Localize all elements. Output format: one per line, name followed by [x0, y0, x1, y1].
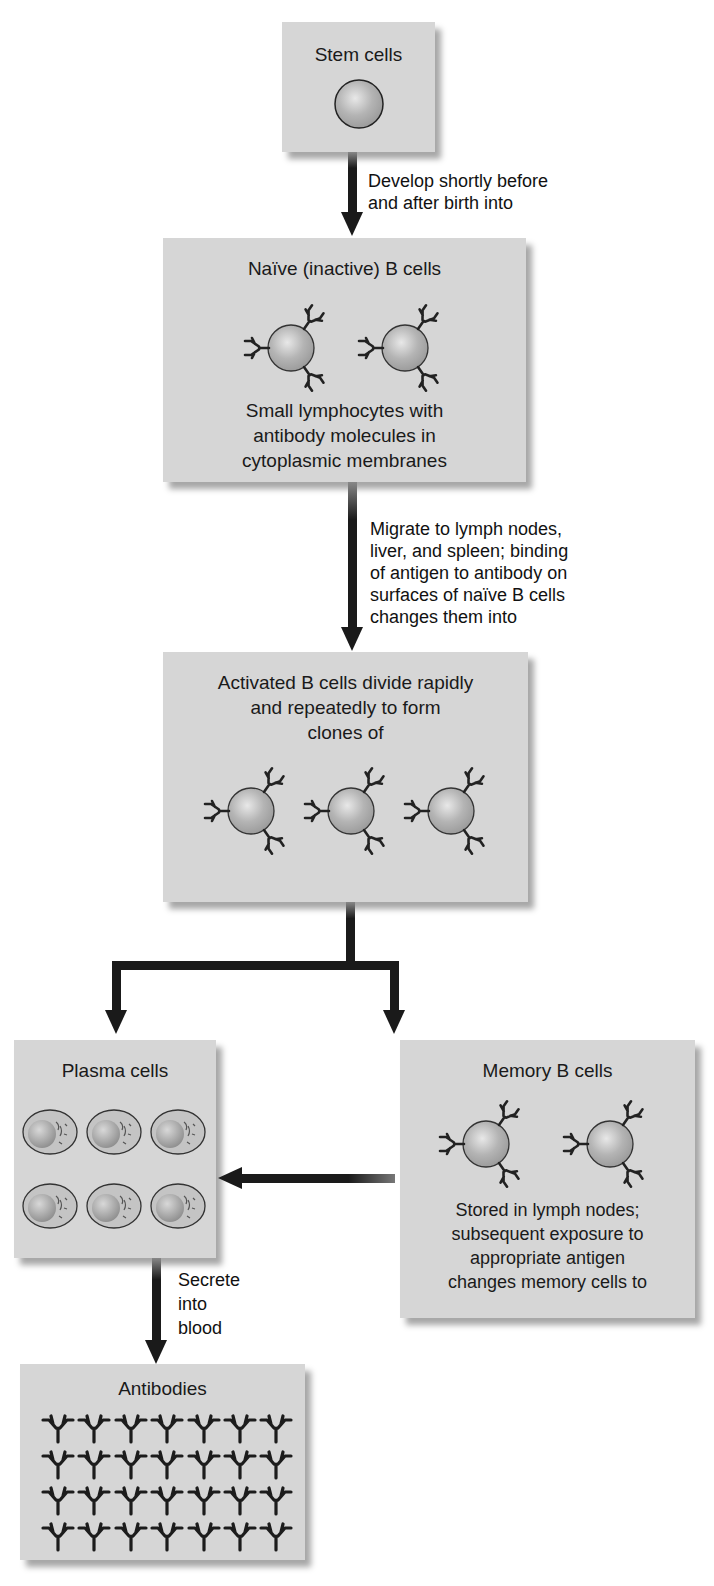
arrow-plasma-to-antibodies: [152, 1258, 161, 1344]
antibodies-grid-icon: [20, 1364, 305, 1560]
arrow-head-icon: [218, 1167, 242, 1189]
plasma-cells-icon: [14, 1040, 216, 1258]
arrow-head-icon: [145, 1340, 167, 1364]
memory-b-cells-box: Memory B cells Stored in lymph nodes; su…: [400, 1040, 695, 1318]
activated-b-cell-clones-icon: [163, 652, 528, 902]
arrow-memory-to-plasma: [240, 1174, 395, 1183]
stem-cell-icon: [333, 78, 385, 130]
edge-label-plasma-to-antibodies: Secrete into blood: [178, 1268, 240, 1340]
branch-left: [112, 961, 121, 1015]
arrow-head-icon: [105, 1010, 127, 1034]
branch-stem: [346, 902, 355, 968]
arrow-head-icon: [341, 627, 363, 651]
plasma-cells-box: Plasma cells: [14, 1040, 216, 1258]
stem-cells-box: Stem cells: [282, 22, 435, 152]
branch-horizontal: [112, 961, 399, 970]
memory-b-cells-description: Stored in lymph nodes; subsequent exposu…: [400, 1198, 695, 1294]
edge-label-naive-to-activated: Migrate to lymph nodes, liver, and splee…: [370, 518, 568, 628]
arrow-stem-to-naive: [348, 152, 357, 216]
antibodies-box: Antibodies: [20, 1364, 305, 1560]
branch-right: [390, 961, 399, 1015]
arrow-head-icon: [383, 1010, 405, 1034]
arrow-naive-to-activated: [348, 482, 357, 632]
stem-cells-title: Stem cells: [282, 44, 435, 66]
naive-b-cells-box: Naïve (inactive) B cells Small lymphocyt…: [163, 238, 526, 482]
arrow-head-icon: [341, 212, 363, 236]
edge-label-stem-to-naive: Develop shortly before and after birth i…: [368, 170, 548, 214]
activated-b-cells-box: Activated B cells divide rapidly and rep…: [163, 652, 528, 902]
naive-b-cells-description: Small lymphocytes with antibody molecule…: [163, 398, 526, 473]
